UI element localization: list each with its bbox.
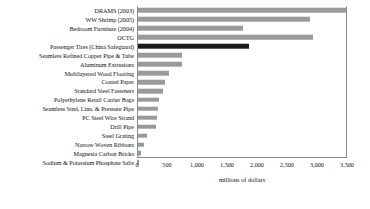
category-label: Passenger Tires (China Safeguard) <box>0 43 137 50</box>
chart-row: Polyethylene Retail Carrier Bags <box>0 95 347 104</box>
chart-row: Narrow Woven Ribbons <box>0 140 347 149</box>
bar[interactable] <box>137 71 169 76</box>
bar[interactable] <box>137 17 310 22</box>
chart-row: Steel Grating <box>0 131 347 140</box>
chart-rows: DRAMS (2003)WW Shrimp (2005)Bedroom Furn… <box>0 6 347 158</box>
bar-track <box>137 51 347 60</box>
bar-track <box>137 149 347 158</box>
chart-row: WW Shrimp (2005) <box>0 15 347 24</box>
category-label: Seamless Stnd, Line, & Pressure Pipe <box>0 105 137 112</box>
bar[interactable] <box>137 151 141 156</box>
chart-row: DRAMS (2003) <box>0 6 347 15</box>
bar-track <box>137 33 347 42</box>
chart-row: Multilayered Wood Flooring <box>0 69 347 78</box>
bar-track <box>137 60 347 69</box>
x-tick-label: 0 <box>135 161 138 168</box>
category-label: OCTG <box>0 34 137 41</box>
bar-track <box>137 69 347 78</box>
bar[interactable] <box>137 26 243 31</box>
chart-row: OCTG <box>0 33 347 42</box>
bar[interactable] <box>137 8 347 13</box>
category-label: Aluminum Extrusions <box>0 61 137 68</box>
category-label: Coated Paper <box>0 78 137 85</box>
category-label: Magnesia Carbon Bricks <box>0 150 137 157</box>
bar-track <box>137 42 347 51</box>
bar-track <box>137 86 347 95</box>
chart-row: Passenger Tires (China Safeguard) <box>0 42 347 51</box>
bar-track <box>137 15 347 24</box>
bar-track <box>137 6 347 15</box>
chart-row: Seamless Refined Copper Pipe & Tube <box>0 51 347 60</box>
bar-track <box>137 131 347 140</box>
category-label: Standard Steel Fasteners <box>0 87 137 94</box>
bar[interactable] <box>137 98 159 103</box>
bar[interactable] <box>137 89 163 94</box>
chart-row: Drill Pipe <box>0 122 347 131</box>
chart-row: Coated Paper <box>0 78 347 87</box>
x-tick-label: 1,000 <box>190 161 204 168</box>
bar-track <box>137 104 347 113</box>
category-label: Polyethylene Retail Carrier Bags <box>0 96 137 103</box>
bar[interactable] <box>137 44 249 49</box>
category-label: Narrow Woven Ribbons <box>0 141 137 148</box>
chart-row: Bedroom Furniture (2004) <box>0 24 347 33</box>
bar-track <box>137 24 347 33</box>
bar-track <box>137 78 347 87</box>
chart-row: Magnesia Carbon Bricks <box>0 149 347 158</box>
bar[interactable] <box>137 133 147 138</box>
chart-row: PC Steel Wire Strand <box>0 113 347 122</box>
category-label: Sodium & Potassium Phosphate Salts <box>0 159 137 166</box>
x-axis-title: millions of dollars <box>137 176 347 184</box>
x-tick-label: 2,000 <box>250 161 264 168</box>
chart-row: Standard Steel Fasteners <box>0 86 347 95</box>
bar[interactable] <box>137 80 165 85</box>
bar[interactable] <box>137 106 158 111</box>
bar[interactable] <box>137 142 144 147</box>
category-label: Seamless Refined Copper Pipe & Tube <box>0 52 137 59</box>
bar-track <box>137 95 347 104</box>
chart-row: Seamless Stnd, Line, & Pressure Pipe <box>0 104 347 113</box>
bar[interactable] <box>137 124 156 129</box>
category-label: WW Shrimp (2005) <box>0 16 137 23</box>
category-label: PC Steel Wire Strand <box>0 114 137 121</box>
bar-chart: DRAMS (2003)WW Shrimp (2005)Bedroom Furn… <box>0 0 370 209</box>
x-tick-label: 3,000 <box>310 161 324 168</box>
x-tick-label: 2,500 <box>280 161 294 168</box>
bar[interactable] <box>137 115 157 120</box>
category-label: Steel Grating <box>0 132 137 139</box>
x-tick-label: 3,500 <box>340 161 354 168</box>
category-label: Bedroom Furniture (2004) <box>0 25 137 32</box>
x-axis: 05001,0001,5002,0002,5003,0003,500 <box>137 158 347 172</box>
chart-row: Aluminum Extrusions <box>0 60 347 69</box>
category-label: Multilayered Wood Flooring <box>0 70 137 77</box>
bar[interactable] <box>137 53 182 58</box>
bar-track <box>137 140 347 149</box>
bar-track <box>137 122 347 131</box>
bar[interactable] <box>137 62 182 67</box>
x-tick-label: 500 <box>162 161 171 168</box>
category-label: DRAMS (2003) <box>0 7 137 14</box>
bar[interactable] <box>137 35 313 40</box>
x-tick-label: 1,500 <box>220 161 234 168</box>
category-label: Drill Pipe <box>0 123 137 130</box>
bar-track <box>137 113 347 122</box>
